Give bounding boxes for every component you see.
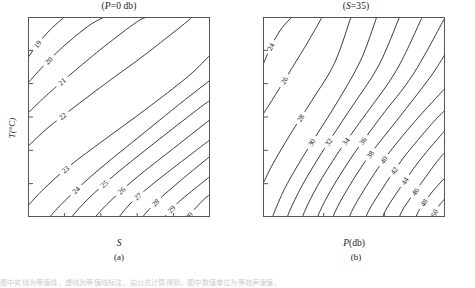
panel-b-subcaption: (b) [237, 252, 475, 262]
panel-a-contour-svg: 1920212223242526272829303130323436384005… [28, 17, 210, 217]
contour-line [346, 88, 445, 217]
contour-line [28, 17, 192, 146]
contour-line [28, 55, 210, 206]
figure-contour-pair: (P=0 db) 1920212223242526272829303130323… [0, 0, 475, 288]
contour-line [315, 18, 445, 217]
panel-a-plot: 1920212223242526272829303130323436384005… [28, 17, 210, 217]
contour-line [363, 110, 445, 217]
page-caption-strip: 图中实线为等值线，虚线为等值线标注，由公式计算得到，图中数值单位为等效声速值。 [0, 277, 475, 288]
panel-a-ylabel: T(°C) [7, 106, 17, 150]
contour-line [270, 17, 377, 217]
contour-line [114, 140, 210, 217]
contour-lines [263, 17, 445, 217]
panel-a-xlabel: S [28, 238, 210, 248]
panel-b-title: (S=35) [237, 1, 475, 11]
contour-line [263, 17, 322, 114]
panel-b-plot: 24262830323436384042444648505202 0004 00… [263, 17, 445, 217]
panel-b-contour-svg: 24262830323436384042444648505202 0004 00… [263, 17, 445, 217]
contour-line [28, 17, 64, 58]
panel-b-xlabel: P(db) [263, 238, 445, 248]
panel-a-subcaption: (a) [0, 252, 238, 262]
panel-a: (P=0 db) 1920212223242526272829303130323… [0, 0, 238, 262]
contour-line [263, 17, 292, 65]
contour-line [28, 17, 104, 83]
panel-b: (S=35) 24262830323436384042444648505202 … [237, 0, 475, 262]
panel-a-title: (P=0 db) [0, 1, 238, 11]
